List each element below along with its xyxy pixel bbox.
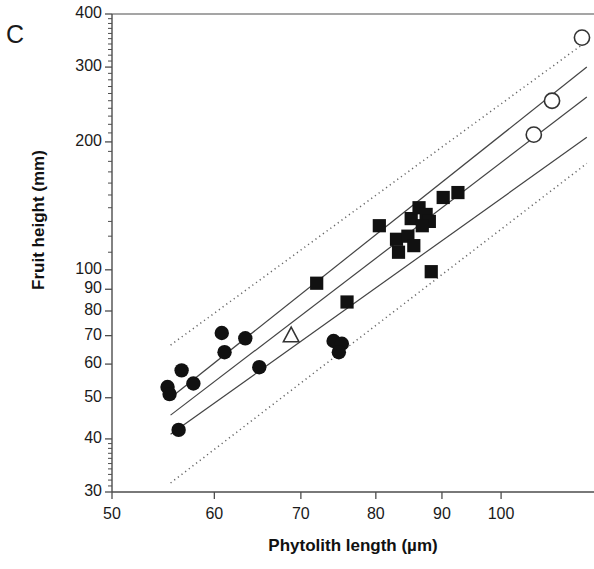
- data-point-filled-circle: [238, 331, 252, 345]
- y-tick-label: 70: [50, 326, 102, 344]
- y-tick-label: 400: [50, 4, 102, 22]
- y-tick-label: 300: [50, 57, 102, 75]
- data-point-open-circle: [574, 30, 589, 45]
- middle-regression-line: [171, 97, 587, 415]
- data-point-filled-circle: [332, 345, 346, 359]
- x-tick-label: 70: [276, 505, 326, 523]
- data-point-filled-circle: [217, 345, 231, 359]
- x-tick-label: 90: [417, 505, 467, 523]
- data-point-filled-square: [310, 277, 323, 290]
- data-point-open-circle: [526, 127, 541, 142]
- data-point-filled-square: [425, 265, 438, 278]
- y-tick-label: 50: [50, 388, 102, 406]
- data-point-filled-circle: [171, 423, 185, 437]
- data-point-open-triangle: [283, 327, 299, 342]
- data-point-filled-square: [373, 219, 386, 232]
- y-tick-label: 40: [50, 429, 102, 447]
- data-point-filled-circle: [215, 326, 229, 340]
- lower-regression-line: [171, 137, 587, 434]
- data-point-filled-circle: [186, 376, 200, 390]
- data-point-filled-square: [437, 191, 450, 204]
- x-tick-label: 60: [189, 505, 239, 523]
- data-point-filled-circle: [162, 387, 176, 401]
- data-point-filled-square: [340, 295, 353, 308]
- data-point-filled-square: [416, 219, 429, 232]
- data-point-filled-square: [451, 186, 464, 199]
- figure-panel-c: C Fruit height (mm) Phytolith length (µm…: [0, 0, 594, 569]
- data-point-filled-square: [407, 239, 420, 252]
- data-point-filled-square: [392, 246, 405, 259]
- data-point-filled-circle: [174, 363, 188, 377]
- data-point-filled-circle: [252, 360, 266, 374]
- data-point-open-circle: [544, 93, 559, 108]
- y-tick-label: 30: [50, 482, 102, 500]
- lower-prediction-bound: [171, 163, 587, 483]
- upper-regression-line: [171, 67, 587, 398]
- x-tick-label: 100: [476, 505, 526, 523]
- x-tick-label: 50: [87, 505, 137, 523]
- y-tick-label: 90: [50, 279, 102, 297]
- data-point-filled-square: [390, 233, 403, 246]
- upper-prediction-bound: [171, 41, 587, 345]
- y-tick-label: 60: [50, 354, 102, 372]
- y-tick-label: 80: [50, 301, 102, 319]
- y-tick-label: 100: [50, 260, 102, 278]
- y-tick-label: 200: [50, 132, 102, 150]
- x-tick-label: 80: [351, 505, 401, 523]
